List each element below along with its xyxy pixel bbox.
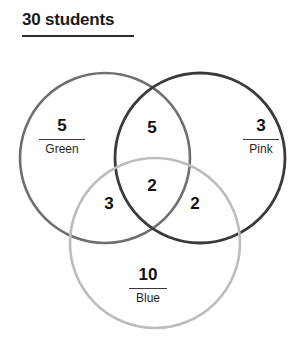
venn-region-pink-only-label: Pink xyxy=(243,142,279,156)
venn-region-blue-only: 10 Blue xyxy=(129,265,167,305)
venn-region-green-pink: 5 xyxy=(147,118,156,138)
venn-region-pink-only: 3 Pink xyxy=(243,116,279,156)
venn-region-blue-only-rule xyxy=(129,288,167,289)
venn-diagram: 5 Green 3 Pink 10 Blue 5 3 2 2 xyxy=(0,0,305,346)
venn-region-pink-blue-value: 2 xyxy=(190,194,199,214)
venn-region-green-blue-value: 3 xyxy=(104,194,113,214)
venn-region-green-only: 5 Green xyxy=(39,116,85,156)
venn-region-pink-only-rule xyxy=(243,139,279,140)
venn-region-green-only-value: 5 xyxy=(39,116,85,138)
venn-region-green-only-label: Green xyxy=(39,142,85,156)
venn-region-pink-blue: 2 xyxy=(190,194,199,214)
venn-region-green-blue: 3 xyxy=(104,194,113,214)
venn-region-blue-only-value: 10 xyxy=(129,265,167,287)
venn-region-green-only-rule xyxy=(39,139,85,140)
venn-region-pink-only-value: 3 xyxy=(243,116,279,138)
venn-region-all-three-value: 2 xyxy=(147,176,156,196)
venn-region-all-three: 2 xyxy=(147,176,156,196)
venn-region-blue-only-label: Blue xyxy=(129,291,167,305)
venn-region-green-pink-value: 5 xyxy=(147,118,156,138)
